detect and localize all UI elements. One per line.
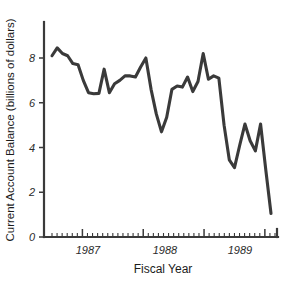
y-tick-label: 0 [29,231,36,243]
x-tick-label: 1987 [76,244,101,256]
y-tick-label: 8 [29,52,36,64]
chart-container: 02468 198719881989 Current Account Balan… [0,0,297,287]
y-axis-title: Current Account Balance (billions of dol… [4,18,16,241]
x-tick-label: 1988 [153,244,178,256]
x-axis-title: Fiscal Year [134,262,193,276]
y-tick-label: 2 [28,186,35,198]
x-tick-label: 1989 [228,244,252,256]
y-tick-label: 4 [29,142,35,154]
line-chart: 02468 198719881989 Current Account Balan… [0,0,297,287]
y-tick-label: 6 [29,97,36,109]
